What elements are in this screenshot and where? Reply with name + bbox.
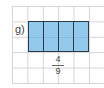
fraction: 4 9 — [52, 55, 64, 76]
fraction-denominator: 9 — [52, 67, 64, 76]
segment — [44, 22, 59, 51]
segment — [74, 22, 88, 51]
segment — [59, 22, 74, 51]
shaded-rectangle — [28, 21, 89, 52]
problem-label: g) — [15, 23, 25, 35]
segment — [29, 22, 44, 51]
fraction-numerator: 4 — [52, 55, 64, 64]
